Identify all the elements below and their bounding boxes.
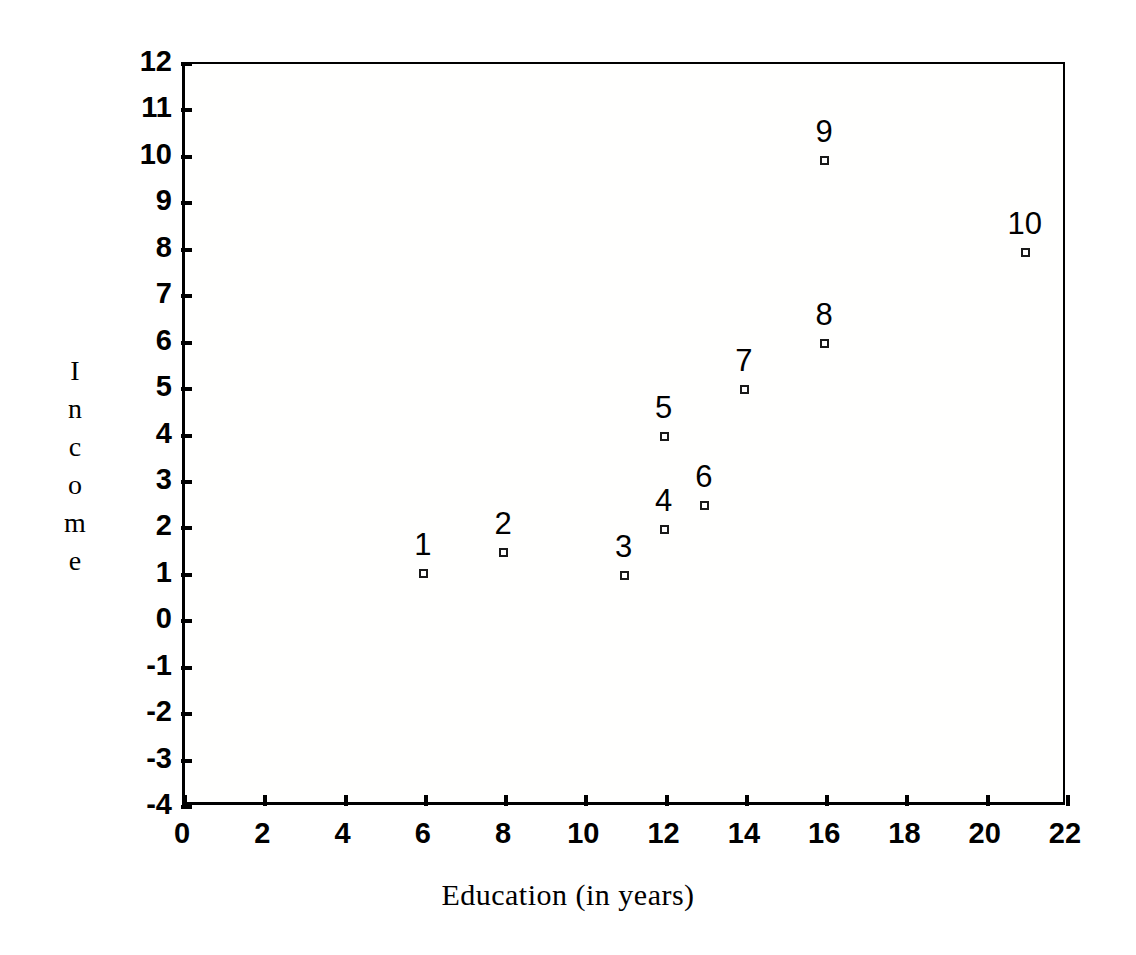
x-axis-tick — [1066, 795, 1070, 806]
x-axis-tick-label: 20 — [955, 819, 1015, 848]
y-axis-title-letter: m — [52, 504, 98, 542]
y-axis-tick-label: -1 — [146, 651, 172, 680]
x-axis-title: Education (in years) — [0, 878, 1136, 912]
x-axis-tick-label: 2 — [232, 819, 292, 848]
x-axis-tick-label: 12 — [634, 819, 694, 848]
y-axis-tick-label: 10 — [140, 140, 172, 169]
y-axis-tick-label: -4 — [146, 790, 172, 819]
y-axis-tick — [181, 108, 192, 112]
y-axis-title-letter: c — [52, 428, 98, 466]
y-axis-tick — [181, 573, 192, 577]
x-axis-tick — [905, 795, 909, 806]
y-axis-tick-label: -2 — [146, 697, 172, 726]
data-point-marker — [740, 385, 749, 394]
scatter-chart: Income -4-3-2-10123456789101112024681012… — [0, 0, 1136, 955]
data-point-marker — [620, 571, 629, 580]
x-axis-tick-label: 18 — [874, 819, 934, 848]
x-axis-tick — [584, 795, 588, 806]
y-axis-tick — [181, 294, 192, 298]
x-axis-tick-label: 16 — [794, 819, 854, 848]
data-point-label: 2 — [473, 508, 533, 539]
data-point-label: 8 — [794, 299, 854, 330]
y-axis-tick — [181, 480, 192, 484]
y-axis-tick-label: 7 — [156, 279, 172, 308]
plot-area — [182, 62, 1065, 805]
x-axis-tick — [424, 795, 428, 806]
data-point-label: 7 — [714, 345, 774, 376]
y-axis-tick-label: 4 — [156, 419, 172, 448]
y-axis-tick-label: 9 — [156, 186, 172, 215]
x-axis-tick — [263, 795, 267, 806]
y-axis-tick — [181, 341, 192, 345]
data-point-marker — [660, 525, 669, 534]
y-axis-title-letter: I — [52, 352, 98, 390]
x-axis-tick-label: 6 — [393, 819, 453, 848]
x-axis-tick — [504, 795, 508, 806]
x-axis-tick-label: 8 — [473, 819, 533, 848]
y-axis-tick — [181, 666, 192, 670]
x-axis-tick-label: 0 — [152, 819, 212, 848]
y-axis-tick-label: 12 — [140, 47, 172, 76]
y-axis-title-letter: o — [52, 466, 98, 504]
x-axis-tick-label: 4 — [313, 819, 373, 848]
y-axis-tick-label: 8 — [156, 233, 172, 262]
x-axis-tick — [986, 795, 990, 806]
data-point-label: 5 — [634, 392, 694, 423]
y-axis-tick — [181, 201, 192, 205]
y-axis-tick — [181, 712, 192, 716]
data-point-marker — [820, 156, 829, 165]
x-axis-tick — [183, 795, 187, 806]
y-axis-tick-label: 0 — [156, 604, 172, 633]
y-axis-tick-label: 1 — [156, 558, 172, 587]
y-axis-title-letter: e — [52, 542, 98, 580]
y-axis-tick-label: 2 — [156, 511, 172, 540]
y-axis-tick — [181, 434, 192, 438]
data-point-marker — [1021, 248, 1030, 257]
y-axis-tick — [181, 387, 192, 391]
y-axis-tick-label: 5 — [156, 372, 172, 401]
y-axis-tick-label: 3 — [156, 465, 172, 494]
data-point-label: 10 — [995, 208, 1055, 239]
y-axis-tick — [181, 248, 192, 252]
y-axis-tick — [181, 619, 192, 623]
data-point-marker — [419, 569, 428, 578]
x-axis-tick-label: 22 — [1035, 819, 1095, 848]
y-axis-tick-label: -3 — [146, 744, 172, 773]
x-axis-tick — [665, 795, 669, 806]
y-axis-tick — [181, 62, 192, 66]
y-axis-title: Income — [52, 352, 98, 580]
y-axis-tick — [181, 526, 192, 530]
data-point-marker — [499, 548, 508, 557]
y-axis-tick — [181, 759, 192, 763]
data-point-label: 6 — [674, 461, 734, 492]
data-point-marker — [660, 432, 669, 441]
data-point-label: 3 — [594, 531, 654, 562]
data-point-label: 1 — [393, 529, 453, 560]
x-axis-tick-label: 14 — [714, 819, 774, 848]
x-axis-tick — [745, 795, 749, 806]
y-axis-tick-label: 6 — [156, 326, 172, 355]
data-point-marker — [700, 501, 709, 510]
y-axis-title-letter: n — [52, 390, 98, 428]
y-axis-tick — [181, 155, 192, 159]
y-axis-tick-label: 11 — [141, 93, 172, 122]
x-axis-tick-label: 10 — [553, 819, 613, 848]
x-axis-tick — [825, 795, 829, 806]
x-axis-tick — [344, 795, 348, 806]
data-point-label: 9 — [794, 116, 854, 147]
data-point-marker — [820, 339, 829, 348]
